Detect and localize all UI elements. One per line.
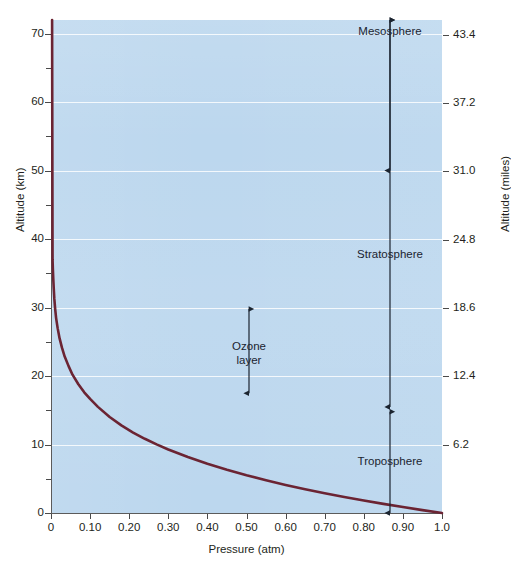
layer-annotation-arrows <box>249 20 390 513</box>
mesosphere-label: Mesosphere <box>358 25 421 38</box>
x-axis-title: Pressure (atm) <box>51 543 442 555</box>
stratosphere-label: Stratosphere <box>357 248 423 261</box>
ozone-label-line2: layer <box>232 354 266 368</box>
ozone-layer-label: Ozone layer <box>232 340 266 368</box>
y-axis-title-left: Altitude (km) <box>14 167 26 232</box>
y-axis-title-right: Altitude (miles) <box>499 156 511 232</box>
pressure-altitude-curve <box>52 20 442 513</box>
ozone-label-line1: Ozone <box>232 340 266 354</box>
troposphere-label: Troposphere <box>358 455 423 468</box>
